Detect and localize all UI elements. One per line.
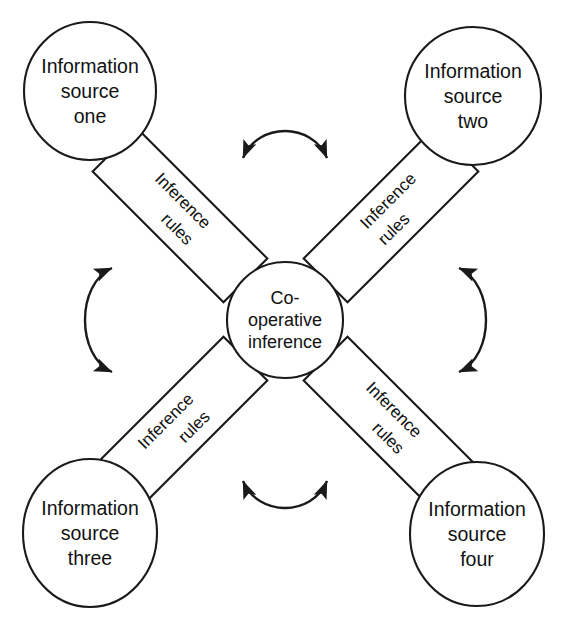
source-two-node[interactable]: Information source two xyxy=(405,27,541,165)
arc-right xyxy=(459,268,486,372)
source-four-line3: four xyxy=(460,548,494,570)
co-operative-inference-node[interactable]: Co- operative inference xyxy=(227,262,343,378)
source-three-line2: source xyxy=(61,522,120,544)
diagram-canvas: Inference rules Inference rules Inferenc… xyxy=(0,0,561,636)
source-three-line3: three xyxy=(68,547,112,569)
source-four-line2: source xyxy=(448,523,507,545)
co-operative-inference-line1: Co- xyxy=(270,288,299,308)
arc-top xyxy=(243,131,327,158)
source-four-line1: Information xyxy=(428,498,526,520)
source-one-line2: source xyxy=(61,80,120,102)
source-one-node[interactable]: Information source one xyxy=(24,22,156,160)
arc-left xyxy=(85,268,112,372)
source-three-line1: Information xyxy=(41,497,139,519)
source-three-node[interactable]: Information source three xyxy=(23,459,157,607)
cooperative-inference-diagram: Inference rules Inference rules Inferenc… xyxy=(0,0,561,636)
source-one-line1: Information xyxy=(41,55,139,77)
source-two-line1: Information xyxy=(424,60,522,82)
arc-bottom xyxy=(243,481,327,508)
source-two-line2: source xyxy=(444,85,503,107)
source-four-node[interactable]: Information source four xyxy=(410,462,544,606)
co-operative-inference-line2: operative xyxy=(248,310,322,330)
source-one-line3: one xyxy=(74,105,107,127)
co-operative-inference-line3: inference xyxy=(248,332,322,352)
source-two-line3: two xyxy=(458,110,489,132)
